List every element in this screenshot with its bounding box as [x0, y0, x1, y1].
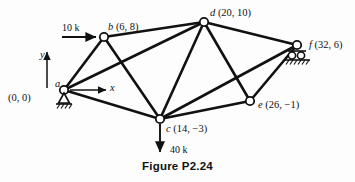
node-name-e: e: [258, 99, 263, 110]
node-label-c: c (14, −3): [166, 124, 207, 135]
node-label-f: f (32, 6): [309, 40, 343, 51]
node-label-b: b (6, 8): [108, 22, 139, 33]
node-coords-e: (26, −1): [265, 99, 299, 110]
node-label-e: e (26, −1): [258, 100, 299, 111]
pin-support-a: [56, 93, 72, 109]
node-coords-f: (32, 6): [315, 39, 343, 50]
roller-wheel-right: [297, 52, 304, 59]
y-axis-label: y: [40, 50, 45, 61]
joint-d: [200, 18, 208, 26]
node-name-f: f: [309, 39, 312, 50]
x-axis-label: x: [110, 83, 115, 94]
joint-c: [156, 115, 164, 123]
node-name-d: d: [210, 7, 215, 18]
figure-caption: Figure P2.24: [0, 160, 355, 172]
member-c-d: [160, 22, 204, 119]
member-d-f: [204, 22, 297, 45]
node-name-b: b: [108, 21, 113, 32]
node-coords-b: (6, 8): [116, 21, 139, 32]
member-a-b: [64, 37, 104, 90]
load-label-10k: 10 k: [62, 23, 80, 33]
member-d-e: [204, 22, 250, 101]
node-name-a: a: [55, 78, 60, 89]
joint-b: [100, 33, 108, 41]
node-label-d: d (20, 10): [210, 8, 251, 19]
node-coords-d: (20, 10): [218, 7, 251, 18]
node-name-c: c: [166, 123, 171, 134]
joint-f: [293, 41, 301, 49]
node-label-a: a: [55, 79, 60, 90]
pin-triangle: [59, 93, 70, 103]
node-coords-c: (14, −3): [173, 123, 207, 134]
node-coords-a: (0, 0): [8, 93, 31, 104]
load-label-40k: 40 k: [170, 145, 188, 155]
joint-e: [246, 97, 254, 105]
member-a-c: [64, 90, 160, 119]
member-b-c: [104, 37, 160, 119]
member-c-e: [160, 101, 250, 119]
truss-figure: a (0, 0) b (6, 8) c (14, −3) d (20, 10) …: [0, 0, 355, 182]
roller-support-f: [285, 51, 310, 65]
roller-wheel-left: [288, 52, 295, 59]
